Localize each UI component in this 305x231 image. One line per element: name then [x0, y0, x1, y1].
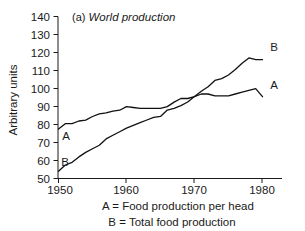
y-tick-label-130: 130 — [31, 29, 50, 41]
figure-world-production: 140 130 120 110 100 90 80 70 60 50 1950 … — [0, 0, 305, 231]
legend-caption-a: A = Food production per head — [102, 200, 254, 212]
y-tick-label-60: 60 — [37, 155, 50, 167]
x-tick-label-1960: 1960 — [113, 184, 139, 196]
y-tick-label-70: 70 — [37, 137, 50, 149]
x-tick-label-1970: 1970 — [181, 184, 207, 196]
y-tick-label-120: 120 — [31, 47, 50, 59]
legend-caption-b: B = Total food production — [108, 216, 235, 228]
series-start-label-a: A — [62, 130, 70, 142]
y-tick-label-110: 110 — [32, 65, 50, 77]
y-tick-label-90: 90 — [37, 101, 50, 113]
series-line-b — [59, 58, 263, 171]
chart-canvas: 140 130 120 110 100 90 80 70 60 50 1950 … — [0, 0, 305, 231]
y-tick-label-50: 50 — [37, 173, 50, 185]
series-end-label-b: B — [270, 41, 278, 53]
x-tick-marks — [59, 179, 263, 184]
y-axis-title: Arbitrary units — [7, 64, 19, 135]
series-line-a — [59, 89, 263, 130]
chart-title-prefix: (a) — [72, 11, 89, 23]
chart-title: (a) World production — [72, 11, 175, 23]
series-end-label-a: A — [270, 79, 278, 91]
y-tick-marks — [54, 17, 59, 179]
x-axis: 1950 1960 1970 1980 — [47, 179, 282, 197]
y-tick-label-140: 140 — [31, 11, 50, 23]
chart-title-italic: World production — [89, 11, 176, 23]
y-tick-label-100: 100 — [31, 83, 50, 95]
y-axis: 140 130 120 110 100 90 80 70 60 50 — [31, 11, 58, 185]
x-tick-label-1950: 1950 — [47, 184, 73, 196]
series-start-label-b: B — [61, 156, 69, 168]
y-tick-label-80: 80 — [37, 119, 50, 131]
x-tick-label-1980: 1980 — [249, 184, 275, 196]
